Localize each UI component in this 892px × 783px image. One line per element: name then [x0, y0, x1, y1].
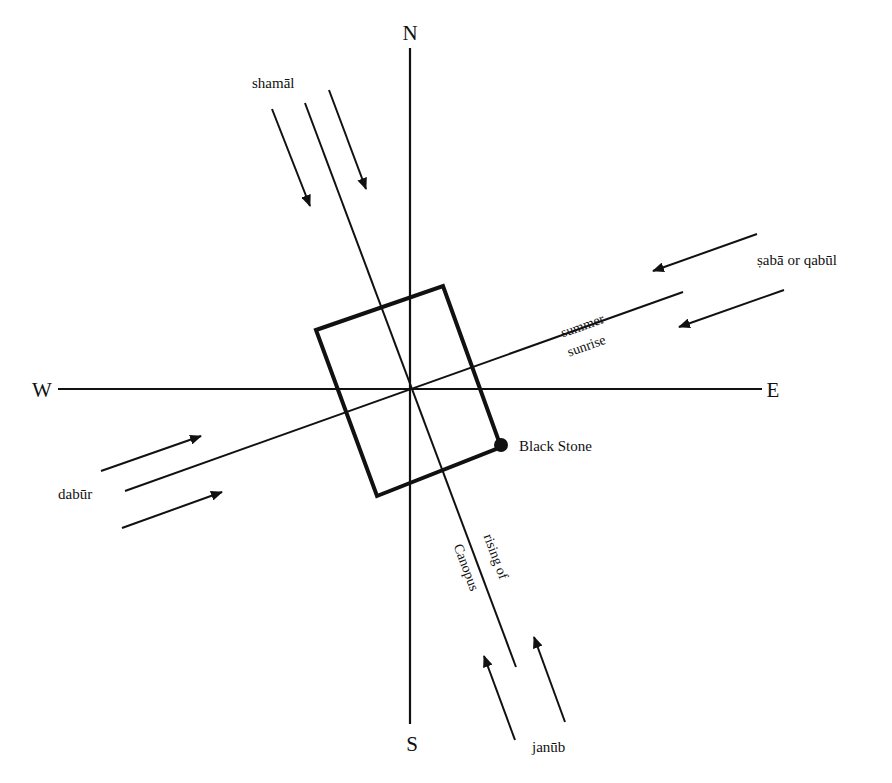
black-stone-label: Black Stone	[519, 438, 592, 454]
kaaba-orientation-diagram: N S W E shamāl ṣabā or qabūl dabūr janūb…	[0, 0, 892, 783]
black-stone-marker	[494, 438, 508, 452]
east-label: E	[767, 378, 780, 402]
saba-label: ṣabā or qabūl	[757, 252, 837, 268]
rising-of-label: rising of	[481, 532, 512, 582]
janub-arrow-1	[484, 656, 515, 740]
janub-arrow-2	[534, 637, 565, 722]
shamal-label: shamāl	[252, 75, 295, 91]
canopus-label: Canopus	[451, 542, 482, 593]
north-label: N	[402, 21, 417, 45]
west-label: W	[32, 378, 52, 402]
dabur-label: dabūr	[58, 486, 92, 502]
kaaba-outline	[316, 286, 501, 496]
shamal-arrow-1	[272, 109, 310, 206]
shamal-arrow-2	[329, 90, 366, 189]
dabur-arrow-1	[101, 436, 201, 471]
saba-arrow-1	[653, 234, 757, 271]
saba-arrow-2	[679, 290, 784, 327]
janub-label: janūb	[531, 739, 565, 755]
dabur-arrow-2	[122, 492, 222, 528]
south-label: S	[406, 732, 418, 756]
